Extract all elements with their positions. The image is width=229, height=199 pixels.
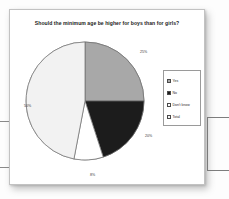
legend-swatch-no [167,91,171,95]
pie-slices [26,42,144,160]
legend-item-no[interactable]: No [167,87,200,99]
chart-legend: Yes No Don't know Total [163,70,201,126]
legend-item-dont-know[interactable]: Don't know [167,99,200,111]
chart-card: Should the minimum age be higher for boy… [9,9,205,185]
pie-chart: 25% 20% 8% 50% [23,34,153,179]
pie-label-total: 50% [24,104,31,108]
legend-label-dont-know: Don't know [173,103,190,107]
legend-item-total[interactable]: Total [167,111,200,123]
pie-label-yes: 25% [140,50,147,54]
legend-item-yes[interactable]: Yes [167,75,200,87]
pie-label-dont-know: 8% [90,173,95,177]
chart-title: Should the minimum age be higher for boy… [10,20,204,27]
legend-swatch-yes [167,79,171,83]
legend-label-no: No [173,91,177,95]
pie-slice-total[interactable] [26,42,85,159]
legend-swatch-total [167,115,171,119]
pie-slice-yes[interactable] [85,42,144,101]
background-box-right [207,117,229,171]
pie-chart-svg [23,34,153,179]
legend-label-total: Total [173,115,180,119]
legend-swatch-dont-know [167,103,171,107]
legend-label-yes: Yes [173,79,179,83]
pie-label-no: 20% [145,134,152,138]
